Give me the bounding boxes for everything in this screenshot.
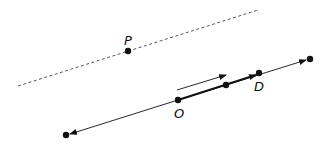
label-p: P — [124, 33, 132, 48]
dashed-line-through-p — [18, 10, 258, 86]
label-d: D — [254, 79, 264, 94]
vector-od — [178, 75, 256, 100]
label-o: O — [174, 106, 184, 121]
point-o — [175, 97, 181, 103]
point-p — [125, 48, 131, 54]
point-d — [256, 70, 262, 76]
point-mid — [223, 82, 229, 88]
point-end-left — [63, 132, 69, 138]
main-line-left — [70, 100, 178, 134]
point-end-right — [307, 56, 313, 62]
line-vector-diagram: P O D — [0, 0, 325, 145]
